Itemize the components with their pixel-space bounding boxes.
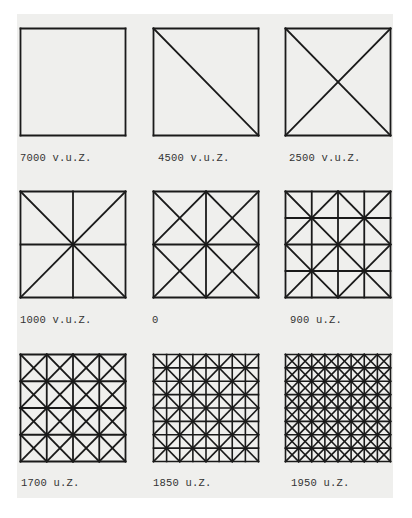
- panel-label: 1950 u.Z.: [291, 477, 350, 489]
- panel-label: 0: [152, 314, 159, 326]
- panel-label: 1000 v.u.Z.: [20, 314, 92, 326]
- pattern-icon: [152, 27, 260, 137]
- pattern-icon: [19, 27, 127, 137]
- panel-7000-vuz: [19, 27, 127, 137]
- pattern-icon: [284, 353, 392, 463]
- panel-label: 7000 v.u.Z.: [20, 152, 92, 164]
- panel-0: [152, 190, 260, 299]
- panel-label: 1700 u.Z.: [21, 477, 80, 489]
- panel-label: 4500 v.u.Z.: [158, 152, 230, 164]
- panel-1000-vuz: [19, 190, 127, 299]
- panel-1850-uz: [152, 353, 260, 463]
- panel-label: 900 u.Z.: [290, 314, 342, 326]
- panel-4500-vuz: [152, 27, 260, 137]
- panel-1700-uz: [19, 353, 127, 463]
- pattern-icon: [19, 353, 127, 463]
- pattern-icon: [19, 190, 127, 299]
- pattern-icon: [284, 190, 392, 299]
- panel-2500-vuz: [284, 27, 392, 137]
- panel-label: 2500 v.u.Z.: [289, 152, 361, 164]
- panel-1950-uz: [284, 353, 392, 463]
- pattern-icon: [152, 190, 260, 299]
- pattern-icon: [284, 27, 392, 137]
- panel-label: 1850 u.Z.: [153, 477, 212, 489]
- panel-900-uz: [284, 190, 392, 299]
- pattern-icon: [152, 353, 260, 463]
